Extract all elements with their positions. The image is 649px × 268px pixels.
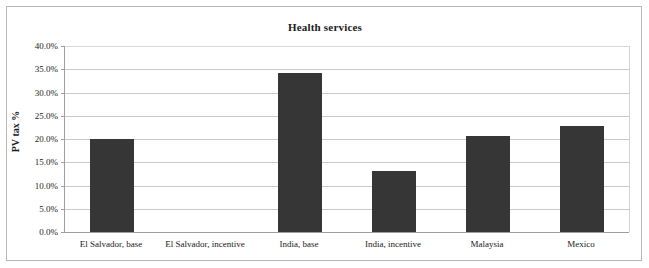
bar[interactable] xyxy=(560,126,604,232)
y-axis-tick-label: 40.0% xyxy=(35,41,58,51)
y-axis-tick-label: 5.0% xyxy=(39,204,58,214)
gridline xyxy=(65,232,629,233)
category-label: El Salvador, incentive xyxy=(158,239,252,249)
y-axis-tick-label: 0.0% xyxy=(39,227,58,237)
y-axis-tick xyxy=(61,232,65,233)
bar-slot xyxy=(253,46,347,232)
y-axis-tick-label: 30.0% xyxy=(35,88,58,98)
y-axis-tick-label: 20.0% xyxy=(35,134,58,144)
bar[interactable] xyxy=(278,73,322,232)
category-label: Malaysia xyxy=(440,239,534,249)
category-label: Mexico xyxy=(534,239,628,249)
y-axis-tick-label: 35.0% xyxy=(35,64,58,74)
category-label: India, incentive xyxy=(346,239,440,249)
bar-slot xyxy=(535,46,629,232)
plot-area: 40.0%35.0%30.0%25.0%20.0%15.0%10.0%5.0%0… xyxy=(64,46,630,232)
bar-slot xyxy=(159,46,253,232)
bar-slot xyxy=(347,46,441,232)
bar[interactable] xyxy=(372,171,416,232)
y-axis-tick-label: 15.0% xyxy=(35,157,58,167)
category-label: India, base xyxy=(252,239,346,249)
category-label: El Salvador, base xyxy=(64,239,158,249)
bars-layer xyxy=(65,46,629,232)
chart-title: Health services xyxy=(7,21,643,33)
bar-slot xyxy=(65,46,159,232)
bar[interactable] xyxy=(90,139,134,232)
bar-slot xyxy=(441,46,535,232)
y-axis-tick-label: 25.0% xyxy=(35,111,58,121)
bar[interactable] xyxy=(466,136,510,232)
x-axis-category-labels: El Salvador, baseEl Salvador, incentiveI… xyxy=(64,239,630,259)
y-axis-tick-label: 10.0% xyxy=(35,181,58,191)
y-axis-title: PV tax % xyxy=(10,102,21,162)
chart-frame: Health services PV tax % 40.0%35.0%30.0%… xyxy=(6,6,642,261)
